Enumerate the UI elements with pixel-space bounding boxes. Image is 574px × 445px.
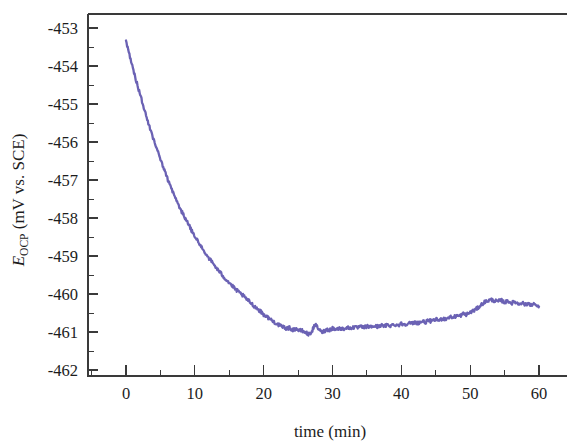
y-tick-label: -454	[48, 57, 78, 76]
y-tick-label: -459	[48, 247, 78, 266]
y-tick-label: -458	[48, 209, 78, 228]
data-series-line	[126, 41, 539, 336]
axis-spines	[88, 14, 567, 376]
y-tick-label: -456	[48, 133, 78, 152]
y-tick-label: -461	[48, 323, 78, 342]
svg-text:EOCP (mV vs. SCE): EOCP (mV vs. SCE)	[9, 134, 30, 268]
data-series-group	[126, 41, 539, 336]
x-axis-ticks	[92, 365, 539, 376]
x-tick-label: 0	[122, 384, 130, 403]
y-axis-title-units: (mV vs. SCE)	[9, 134, 28, 234]
y-tick-label: -457	[48, 171, 78, 190]
y-axis-tick-labels: -453-454-455-456-457-458-459-460-461-462	[48, 19, 78, 380]
x-tick-label: 60	[531, 384, 548, 403]
x-tick-label: 10	[187, 384, 204, 403]
x-tick-label: 40	[393, 384, 410, 403]
chart-canvas: 0102030405060 -453-454-455-456-457-458-4…	[0, 0, 574, 445]
y-axis-title-subscript: OCP	[18, 234, 30, 256]
x-tick-label: 50	[462, 384, 479, 403]
x-tick-label: 20	[255, 384, 272, 403]
y-tick-label: -453	[48, 19, 78, 38]
y-tick-label: -462	[48, 361, 78, 380]
x-axis-tick-labels: 0102030405060	[122, 384, 547, 403]
axis-spine-left-bottom	[88, 14, 567, 376]
y-tick-label: -460	[48, 285, 78, 304]
x-axis-title: time (min)	[294, 422, 366, 441]
y-tick-label: -455	[48, 95, 78, 114]
y-axis-title-symbol: E	[9, 255, 28, 267]
y-axis-ticks	[88, 28, 98, 370]
ocp-vs-time-figure: 0102030405060 -453-454-455-456-457-458-4…	[0, 0, 574, 445]
x-tick-label: 30	[324, 384, 341, 403]
y-axis-title: EOCP (mV vs. SCE)	[9, 134, 30, 268]
